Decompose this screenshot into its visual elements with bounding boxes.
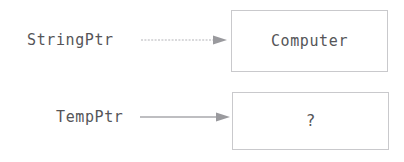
memory-box-string-value: Computer	[271, 34, 348, 49]
memory-box-string: Computer	[231, 10, 388, 72]
memory-box-temp-value: ?	[306, 113, 316, 129]
pointer-label-stringptr: StringPtr	[27, 33, 114, 48]
arrow-right-icon-stringptr	[141, 34, 229, 46]
pointer-label-tempptr: TempPtr	[56, 110, 123, 125]
pointer-diagram: StringPtr Computer TempPtr ?	[0, 0, 404, 162]
arrow-right-icon-tempptr	[140, 111, 232, 123]
memory-box-temp: ?	[232, 92, 389, 150]
